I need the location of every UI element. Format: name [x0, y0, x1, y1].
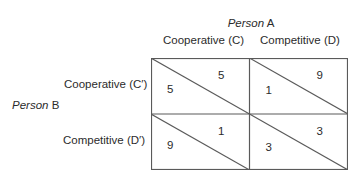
payoff-a: 9: [317, 69, 323, 81]
cell-dc: 9 1: [151, 114, 249, 170]
payoff-a: 5: [218, 69, 224, 81]
column-player-name: A: [267, 17, 275, 29]
payoff-b: 3: [266, 141, 272, 153]
payoff-b: 9: [167, 139, 173, 151]
payoff-b: 1: [266, 84, 272, 96]
payoff-a: 1: [218, 125, 224, 137]
payoff-a: 3: [317, 125, 323, 137]
row-player-name: B: [52, 99, 60, 111]
cell-cc: 5 5: [151, 58, 249, 114]
payoff-matrix: 5 5 1 9 9 1 3 3: [151, 58, 348, 170]
column-header-cooperative: Cooperative (C): [163, 34, 244, 46]
column-player-label: Person A: [228, 17, 275, 29]
cell-cd: 1 9: [250, 58, 348, 114]
column-player-italic: Person: [228, 17, 264, 29]
row-header-competitive: Competitive (D′): [63, 134, 145, 146]
row-header-cooperative: Cooperative (C′): [64, 78, 147, 90]
row-player-label: Person B: [12, 99, 59, 111]
row-player-italic: Person: [12, 99, 48, 111]
column-header-competitive: Competitive (D): [260, 34, 340, 46]
cell-dd: 3 3: [250, 114, 348, 170]
payoff-b: 5: [167, 83, 173, 95]
